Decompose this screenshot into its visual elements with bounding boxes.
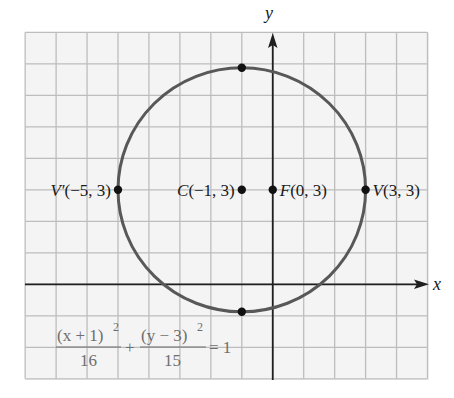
equation-exponent-1: 2 [113, 320, 119, 334]
ellipse-diagram: x y V′(−5, 3)C(−1, 3)F(0, 3)V(3, 3) (x +… [0, 0, 454, 398]
equation-denominator-1: 16 [80, 351, 97, 370]
point-focus-label: F(0, 3) [279, 181, 327, 200]
equation-numerator-1: (x + 1) [57, 326, 103, 345]
equation-numerator-2: (y − 3) [141, 326, 187, 345]
point-v-prime-marker [114, 186, 122, 194]
equation-exponent-2: 2 [197, 320, 203, 334]
point-v-prime-label: V′(−5, 3) [50, 181, 111, 200]
point-covertex-bottom-marker [238, 308, 246, 316]
x-axis-label: x [432, 274, 441, 294]
point-focus-marker [269, 186, 277, 194]
point-center-marker [238, 186, 246, 194]
coordinate-plane: x y V′(−5, 3)C(−1, 3)F(0, 3)V(3, 3) (x +… [0, 0, 454, 398]
y-axis-label: y [263, 3, 273, 23]
equation-plus: + [125, 338, 135, 357]
equation-equals-one: = 1 [209, 338, 231, 357]
point-center-label: C(−1, 3) [177, 181, 235, 200]
point-vertex-label: V(3, 3) [373, 181, 420, 200]
equation-denominator-2: 15 [164, 351, 181, 370]
point-vertex-marker [361, 186, 369, 194]
point-covertex-top-marker [238, 64, 246, 72]
